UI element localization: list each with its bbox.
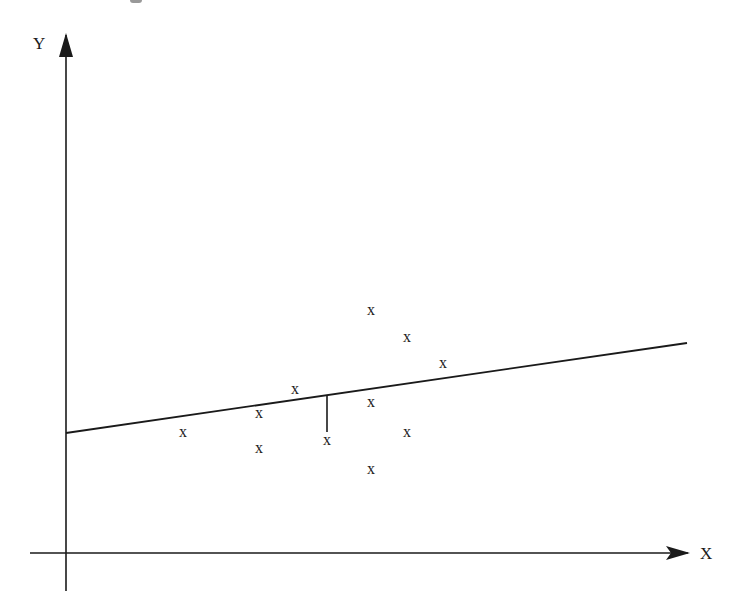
- data-point: x: [179, 424, 187, 440]
- x-axis-label: X: [700, 545, 712, 562]
- data-point: x: [403, 329, 411, 345]
- data-point: x: [255, 440, 263, 456]
- regression-diagram: Y X xxxxxxxxxxx: [0, 0, 739, 610]
- data-point: x: [367, 461, 375, 477]
- regression-line: [66, 343, 687, 433]
- data-point: x: [439, 355, 447, 371]
- data-point: x: [403, 424, 411, 440]
- data-point: x: [367, 302, 375, 318]
- data-point: x: [367, 394, 375, 410]
- y-axis-label: Y: [33, 35, 45, 52]
- data-point: x: [323, 432, 331, 448]
- data-point: x: [255, 405, 263, 421]
- data-point: x: [291, 381, 299, 397]
